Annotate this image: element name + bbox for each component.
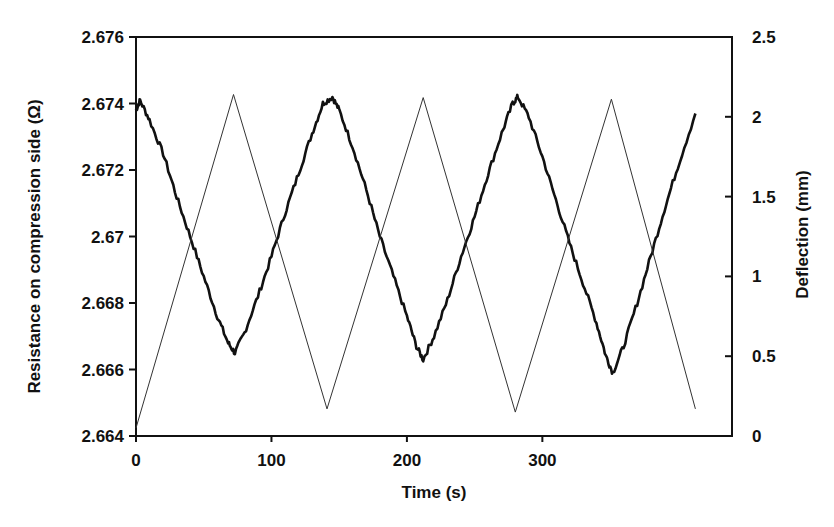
plot-frame: [136, 37, 732, 436]
right-tick-label: 1.5: [752, 188, 776, 207]
left-tick-label: 2.666: [81, 361, 124, 380]
x-tick-label: 300: [528, 451, 556, 470]
resistance-line: [136, 95, 695, 374]
x-axis: 0100200300: [131, 436, 556, 470]
series-layer: [136, 95, 695, 429]
left-tick-label: 2.672: [81, 161, 124, 180]
x-axis-title: Time (s): [402, 483, 467, 502]
x-tick-label: 0: [131, 451, 140, 470]
left-y-axis: 2.6642.6662.6682.672.6722.6742.676: [81, 28, 136, 446]
left-tick-label: 2.676: [81, 28, 124, 47]
left-tick-label: 2.668: [81, 294, 124, 313]
right-tick-label: 2: [752, 108, 761, 127]
x-tick-label: 200: [393, 451, 421, 470]
left-y-axis-title: Resistance on compression side (Ω): [25, 99, 44, 393]
left-tick-label: 2.67: [91, 228, 124, 247]
right-tick-label: 2.5: [752, 28, 776, 47]
left-tick-label: 2.674: [81, 95, 124, 114]
chart: 2.6642.6662.6682.672.6722.6742.676 00.51…: [0, 0, 834, 527]
right-tick-label: 0: [752, 427, 761, 446]
x-tick-label: 100: [257, 451, 285, 470]
right-tick-label: 1: [752, 267, 761, 286]
deflection-line: [136, 95, 695, 429]
right-tick-label: 0.5: [752, 347, 776, 366]
left-tick-label: 2.664: [81, 427, 124, 446]
right-y-axis-title: Deflection (mm): [793, 170, 812, 298]
